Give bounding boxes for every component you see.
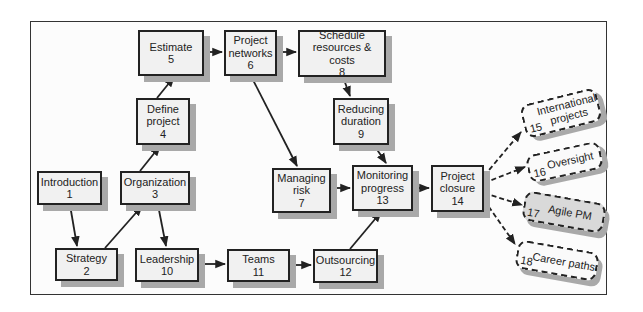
node-label: Leadership <box>140 253 194 266</box>
node-label-line1: Project <box>440 170 474 183</box>
node-number: 3 <box>152 188 158 201</box>
node-number: 16 <box>533 165 547 179</box>
node-number: 18 <box>520 254 534 268</box>
node-number: 9 <box>358 128 364 141</box>
node-label: Agile PM <box>536 201 603 224</box>
node-number: 11 <box>253 266 264 279</box>
node-monitoring-progress: Monitoring progress 13 <box>352 165 413 211</box>
node-number: 17 <box>526 206 540 220</box>
arrow-14-to-18 <box>484 200 515 244</box>
node-number: 10 <box>161 265 173 278</box>
node-managing-risk: Managing risk 7 <box>272 168 331 213</box>
node-number: 12 <box>339 266 351 279</box>
node-label-line2: duration <box>341 115 381 128</box>
node-number: 4 <box>160 128 166 141</box>
node-number: 14 <box>451 195 463 208</box>
arrow-14-to-15 <box>484 132 521 176</box>
arrow-3-to-10 <box>158 205 166 246</box>
node-project-closure: Project closure 14 <box>431 165 484 212</box>
node-outsourcing: Outsourcing 12 <box>313 249 378 283</box>
arrow-12-to-13 <box>350 212 381 249</box>
node-label-line2: resources & costs <box>300 41 384 66</box>
arrow-4-to-5 <box>157 77 174 98</box>
node-number: 2 <box>83 265 89 278</box>
node-introduction: Introduction 1 <box>37 171 102 205</box>
node-project-networks: Project networks 6 <box>224 30 277 76</box>
node-label: Strategy <box>66 252 107 265</box>
node-label-line1: Reducing <box>338 103 384 116</box>
node-strategy: Strategy 2 <box>55 248 118 281</box>
node-label: Teams <box>242 253 274 266</box>
node-number: 13 <box>376 194 388 207</box>
node-leadership: Leadership 10 <box>135 248 199 282</box>
arrow-2-to-3 <box>105 206 142 248</box>
arrow-8-to-9 <box>343 77 350 96</box>
node-label-line1: Project <box>233 34 267 47</box>
node-label: Organization <box>124 176 186 189</box>
node-number: 1 <box>66 188 72 201</box>
node-define-project: Define project 4 <box>136 98 190 145</box>
node-number: 5 <box>168 53 174 66</box>
node-number: 15 <box>528 120 543 135</box>
node-label-line2: progress <box>361 182 404 195</box>
node-label: Career paths <box>531 250 596 273</box>
node-label-line1: Define <box>147 103 179 116</box>
node-estimate: Estimate 5 <box>138 30 204 76</box>
node-number: 6 <box>247 59 253 72</box>
arrow-1-to-2 <box>70 205 77 246</box>
node-label-line2: risk <box>293 184 310 197</box>
node-label: Estimate <box>150 41 193 54</box>
node-label-line1: Schedule <box>319 29 365 42</box>
node-label: Introduction <box>41 176 98 189</box>
node-label-line2: networks <box>228 47 272 60</box>
node-label: Oversight <box>540 148 600 172</box>
node-label-line2: project <box>146 115 179 128</box>
arrow-14-to-17 <box>484 193 522 205</box>
arrow-3-to-4 <box>140 146 160 171</box>
node-number: 7 <box>298 197 304 210</box>
node-teams: Teams 11 <box>227 249 290 282</box>
node-label-line1: Monitoring <box>357 169 408 182</box>
node-number: 8 <box>339 66 345 79</box>
node-label-line2: closure <box>440 182 475 195</box>
node-label: Outsourcing <box>316 254 375 267</box>
node-label-line1: Managing <box>277 172 325 185</box>
arrow-6-to-7 <box>251 76 297 166</box>
node-organization: Organization 3 <box>120 171 190 205</box>
node-schedule-resources: Schedule resources & costs 8 <box>298 30 386 77</box>
node-reducing-duration: Reducing duration 9 <box>333 98 389 145</box>
arrow-9-to-13 <box>374 145 386 163</box>
